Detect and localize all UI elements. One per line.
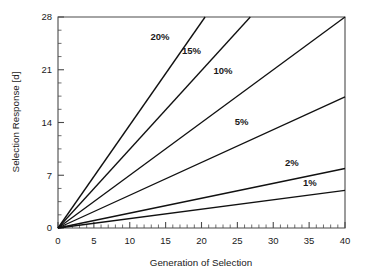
- x-tick-label: 40: [340, 235, 351, 246]
- x-tick-label: 15: [160, 235, 171, 246]
- y-tick-label: 28: [41, 11, 52, 22]
- x-tick-label: 0: [55, 235, 60, 246]
- x-tick-label: 35: [304, 235, 315, 246]
- x-tick-label: 30: [268, 235, 279, 246]
- y-axis-title: Selection Response [d]: [10, 71, 21, 172]
- x-tick-label: 10: [124, 235, 135, 246]
- series-label-20pct: 20%: [150, 31, 170, 42]
- x-tick-label: 5: [91, 235, 96, 246]
- y-tick-label: 21: [41, 64, 52, 75]
- series-label-10pct: 10%: [214, 65, 234, 76]
- y-axis-tick-labels: 07142128: [41, 11, 52, 233]
- selection-response-line-chart: 07142128 0510152025303540 20%15%10%5%2%1…: [0, 0, 366, 274]
- series-label-1pct: 1%: [303, 177, 317, 188]
- x-axis-title: Generation of Selection: [150, 257, 252, 268]
- y-tick-label: 7: [47, 170, 52, 181]
- series-label-2pct: 2%: [285, 157, 299, 168]
- x-tick-label: 25: [232, 235, 243, 246]
- series-label-5pct: 5%: [235, 116, 249, 127]
- chart-figure: 07142128 0510152025303540 20%15%10%5%2%1…: [0, 0, 366, 274]
- y-tick-label: 0: [47, 222, 52, 233]
- series-label-15pct: 15%: [182, 45, 202, 56]
- y-tick-label: 14: [41, 117, 52, 128]
- x-tick-label: 20: [196, 235, 207, 246]
- x-axis-tick-labels: 0510152025303540: [55, 235, 350, 246]
